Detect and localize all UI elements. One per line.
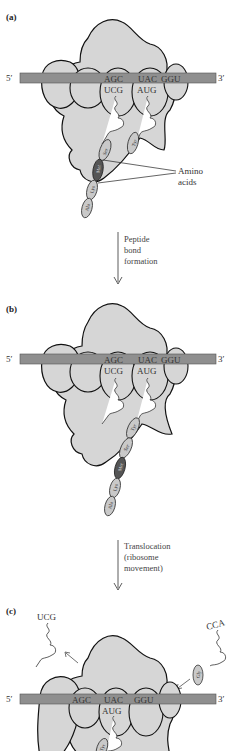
entry-arrow bbox=[178, 679, 190, 688]
codon: GGU bbox=[134, 695, 154, 705]
step-line: movement) bbox=[124, 563, 170, 574]
codon: UAC bbox=[104, 695, 123, 705]
incoming-trna-anticodon: CCA bbox=[205, 617, 226, 632]
five-prime-label: 5′ bbox=[6, 694, 13, 704]
anticodon: AUG bbox=[102, 706, 122, 716]
step-line: (ribosome bbox=[124, 552, 170, 563]
released-trna-anticodon: UCG bbox=[37, 612, 57, 622]
incoming-trna bbox=[210, 630, 226, 666]
exit-arrow bbox=[66, 653, 78, 663]
codon: AGC bbox=[72, 695, 91, 705]
step-line: Translocation bbox=[124, 541, 170, 552]
step-label: Translocation (ribosome movement) bbox=[124, 541, 170, 574]
three-prime-label: 3′ bbox=[218, 694, 225, 704]
ribosome-diagram-c: UCG CCA Gly 5′ 3′ AGC UAC GGU AUG Tyr bbox=[0, 596, 233, 751]
panel-c: (c) UCG CCA Gly 5′ 3′ AGC UAC GGU AUG Ty… bbox=[0, 596, 233, 751]
released-trna bbox=[36, 623, 56, 667]
